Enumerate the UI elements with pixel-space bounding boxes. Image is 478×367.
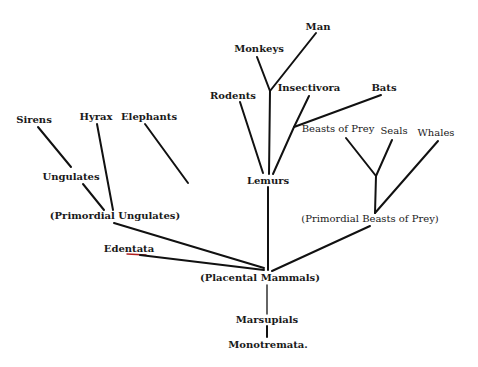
edge-whales bbox=[375, 141, 438, 213]
node-primordial-beasts-of-prey: (Primordial Beasts of Prey) bbox=[301, 213, 438, 224]
node-rodents: Rodents bbox=[210, 90, 256, 101]
edge-seals bbox=[376, 140, 392, 176]
node-whales: Whales bbox=[418, 127, 455, 138]
edge-hyrax bbox=[97, 124, 113, 210]
node-edentata: Edentata bbox=[104, 243, 155, 254]
edge-elephants bbox=[145, 124, 188, 183]
phylogenetic-tree: Man Monkeys Insectivora Bats Rodents Lem… bbox=[0, 0, 478, 367]
tree-edges bbox=[38, 33, 438, 337]
edge-beasts-of-prey bbox=[346, 138, 376, 176]
edge-rodents bbox=[240, 102, 263, 173]
edge-primordial-beasts-placental bbox=[272, 226, 370, 271]
node-hyrax: Hyrax bbox=[80, 111, 114, 122]
edge-monkeys-junction-lemurs bbox=[269, 91, 270, 174]
node-insectivora: Insectivora bbox=[278, 82, 341, 93]
node-ungulates: Ungulates bbox=[42, 171, 100, 182]
node-monkeys: Monkeys bbox=[234, 43, 284, 54]
node-primordial-ungulates: (Primordial Ungulates) bbox=[50, 210, 180, 221]
node-seals: Seals bbox=[380, 125, 407, 136]
node-man: Man bbox=[306, 21, 332, 32]
edge-sirens bbox=[38, 127, 71, 167]
tree-labels: Man Monkeys Insectivora Bats Rodents Lem… bbox=[16, 21, 454, 350]
node-monotremata: Monotremata. bbox=[228, 339, 308, 350]
node-marsupials: Marsupials bbox=[236, 314, 299, 325]
node-elephants: Elephants bbox=[121, 111, 177, 122]
node-lemurs: Lemurs bbox=[247, 175, 290, 186]
node-bats: Bats bbox=[371, 82, 397, 93]
node-beasts-of-prey: Beasts of Prey bbox=[302, 123, 375, 134]
edge-monkeys bbox=[257, 57, 270, 91]
node-sirens: Sirens bbox=[16, 114, 52, 125]
edge-ungulates bbox=[83, 184, 104, 210]
edge-beasts-junction-primordial bbox=[375, 176, 376, 213]
edge-insectivora-junction-lemurs bbox=[273, 127, 294, 174]
node-placental-mammals: (Placental Mammals) bbox=[200, 272, 320, 283]
